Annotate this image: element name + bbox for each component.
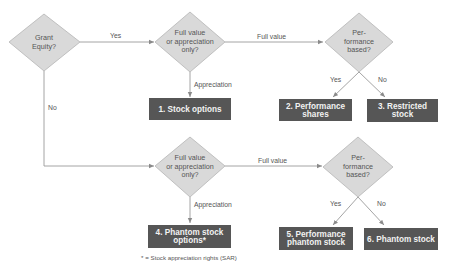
- edge-label-full-value: Full value: [257, 33, 286, 40]
- decision-performance-based: Per-formancebased?: [325, 13, 393, 72]
- decision-full-value-or-appreciation: Full valueor appreciationonly?: [155, 12, 225, 72]
- outcome-performance-phantom-stock: 5. Performancephantom stock: [279, 227, 353, 250]
- edge-label-full-value: Full value: [258, 157, 287, 164]
- edge-label-no: No: [48, 104, 57, 111]
- edge-label-no-perf: No: [377, 200, 386, 207]
- edge-label-no-perf: No: [378, 76, 387, 83]
- outcome-phantom-stock: 6. Phantom stock: [364, 228, 438, 250]
- equity-decision-flowchart: Yes No Full value Appreciation Yes No Fu…: [0, 0, 451, 270]
- footnote-sar: * = Stock appreciation rights (SAR): [141, 254, 237, 261]
- svg-text:6. Phantom stock: 6. Phantom stock: [367, 235, 435, 244]
- svg-text:5. Performancephantom stock: 5. Performancephantom stock: [286, 230, 346, 248]
- edge-label-yes: Yes: [110, 32, 122, 39]
- edge-label-appreciation: Appreciation: [194, 81, 232, 89]
- outcome-stock-options: 1. Stock options: [149, 98, 231, 120]
- edge-grant-no: [44, 71, 154, 166]
- outcome-performance-shares: 2. Performanceshares: [279, 99, 352, 121]
- edge-label-yes-perf: Yes: [330, 76, 342, 83]
- outcome-restricted-stock: 3. Restrictedstock: [367, 99, 438, 122]
- edge-label-yes-perf: Yes: [330, 200, 342, 207]
- edge-label-appreciation: Appreciation: [194, 201, 232, 209]
- outcome-phantom-stock-options: 4. Phantom stockoptions*: [148, 225, 231, 248]
- svg-text:1. Stock options: 1. Stock options: [158, 105, 222, 114]
- decision-full-value-or-appreciation: Full valueor appreciationonly?: [155, 137, 225, 197]
- decision-grant-equity: GrantEquity?: [9, 14, 80, 71]
- decision-performance-based: Per-formancebased?: [323, 137, 393, 197]
- svg-text:GrantEquity?: GrantEquity?: [32, 33, 56, 51]
